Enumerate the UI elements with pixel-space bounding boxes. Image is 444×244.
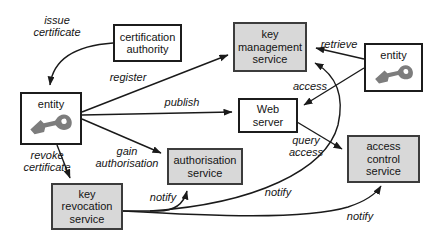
- edge-issue-certificate: [50, 43, 113, 85]
- node-label: key management service: [238, 28, 302, 66]
- key-icon: [371, 60, 416, 88]
- node-label: entity: [380, 49, 406, 62]
- node-web-server: Web server: [238, 98, 298, 133]
- diagram-canvas: certification authority key management s…: [0, 0, 444, 244]
- node-authorisation-service: authorisation service: [167, 148, 243, 185]
- edge-retrieve: [316, 48, 364, 59]
- node-label: certification authority: [120, 31, 176, 56]
- node-entity-top-right: entity: [364, 43, 423, 92]
- node-label: authorisation service: [174, 154, 237, 179]
- node-label: Web server: [253, 103, 284, 128]
- node-label: entity: [38, 98, 64, 111]
- edge-revoke-certificate: [57, 145, 70, 178]
- edge-access: [304, 68, 364, 105]
- node-access-control-service: access control service: [347, 135, 420, 183]
- key-icon: [27, 108, 76, 138]
- node-certification-authority: certification authority: [113, 24, 182, 62]
- edge-gain-authorisation: [82, 119, 161, 153]
- edge-notify-key-management: [150, 63, 340, 211]
- node-entity-left: entity: [20, 92, 82, 145]
- node-key-management-service: key management service: [233, 22, 307, 72]
- node-key-revocation-service: key revocation service: [51, 183, 123, 230]
- node-label: key revocation service: [62, 188, 113, 226]
- node-label: access control service: [366, 140, 401, 178]
- edge-query-access: [297, 122, 342, 149]
- edge-publish: [82, 112, 232, 115]
- edge-register: [82, 55, 228, 112]
